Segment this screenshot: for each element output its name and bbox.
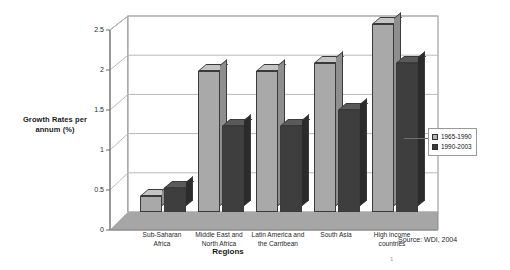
bar-1990-2003-latin-america-carribean[interactable] [280, 126, 302, 212]
bar-front-face [280, 126, 302, 212]
legend-item-1990-2003[interactable]: 1990-2003 [432, 142, 472, 151]
x-axis-title: Regions [168, 247, 288, 256]
bar-1990-2003-middle-east-north-africa[interactable] [222, 126, 244, 212]
legend-swatch-icon [432, 134, 438, 140]
bar-front-face [314, 63, 336, 212]
legend-item-1965-1990[interactable]: 1965-1990 [432, 132, 472, 141]
bar-1965-1990-south-asia[interactable] [314, 63, 336, 212]
legend-label: 1965-1990 [441, 133, 472, 140]
bar-side-face [360, 98, 367, 206]
bar-1990-2003-south-asia[interactable] [338, 110, 360, 212]
bar-front-face [372, 24, 394, 212]
page-mark: 1 [390, 256, 393, 262]
bar-front-face [198, 71, 220, 212]
legend-leader-line [404, 138, 429, 139]
legend-swatch-icon [432, 144, 438, 150]
bar-1965-1990-latin-america-carribean[interactable] [256, 71, 278, 212]
bar-front-face [140, 196, 162, 212]
legend-label: 1990-2003 [441, 143, 472, 150]
source-note: Source: WDI, 2004 [398, 236, 457, 243]
bar-front-face [164, 188, 186, 212]
bar-1990-2003-sub-saharan-africa[interactable] [164, 188, 186, 212]
bar-1965-1990-sub-saharan-africa[interactable] [140, 196, 162, 212]
bar-side-face [418, 51, 425, 206]
bar-1965-1990-high-income-countries[interactable] [372, 24, 394, 212]
bar-1965-1990-middle-east-north-africa[interactable] [198, 71, 220, 212]
growth-rates-bar-chart: Growth Rates per annum (%) [0, 0, 510, 270]
bar-front-face [338, 110, 360, 212]
bar-front-face [222, 126, 244, 212]
bar-front-face [256, 71, 278, 212]
bar-side-face [186, 176, 193, 206]
legend: 1965-1990 1990-2003 [428, 128, 477, 156]
bar-side-face [302, 114, 309, 206]
bar-side-face [244, 114, 251, 206]
